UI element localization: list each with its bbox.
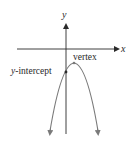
vertex-point: [73, 62, 76, 65]
y-intercept-point: [65, 71, 68, 74]
y-intercept-text: -intercept: [15, 66, 52, 76]
parabola-curve: [50, 63, 98, 131]
y-axis-label: y: [61, 9, 67, 20]
vertex-label: vertex: [73, 52, 97, 62]
parabola-diagram: x y vertex y-intercept: [0, 0, 135, 141]
x-axis-label: x: [120, 43, 126, 54]
left-arrow-icon: [50, 128, 51, 133]
right-arrow-icon: [98, 128, 99, 133]
y-intercept-label: y-intercept: [10, 66, 52, 76]
